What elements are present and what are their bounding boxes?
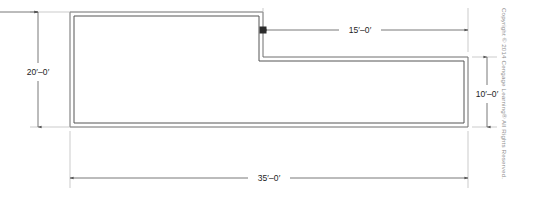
- wall-outer-outline: [70, 12, 468, 127]
- dimension-left-height: 20′–0′: [0, 12, 55, 127]
- floor-plan-drawing-canvas: 20′–0′ 15′–0′ 10′–0′ 35′–0′ Copyright © …: [0, 0, 534, 205]
- dimension-label-top-right: 15′–0′: [349, 25, 372, 35]
- wall-inner-outline: [74, 16, 464, 123]
- step-corner-tick: [260, 27, 267, 34]
- dimension-top-right-width: 15′–0′: [263, 22, 468, 38]
- dimension-bottom-width: 35′–0′: [70, 170, 468, 186]
- dimension-right-height: 10′–0′: [471, 57, 504, 127]
- dimension-label-left: 20′–0′: [27, 67, 50, 77]
- dimension-label-bottom: 35′–0′: [258, 173, 281, 183]
- dimension-label-right: 10′–0′: [476, 89, 499, 99]
- floor-plan-svg: 20′–0′ 15′–0′ 10′–0′ 35′–0′: [0, 0, 534, 205]
